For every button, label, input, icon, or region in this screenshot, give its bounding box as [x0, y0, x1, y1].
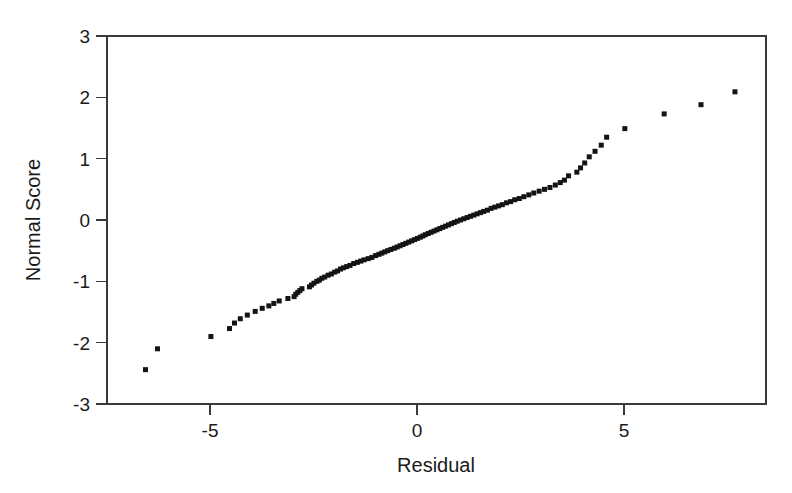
- data-point: [578, 165, 583, 170]
- data-point: [599, 143, 604, 148]
- data-point: [574, 170, 579, 175]
- data-point: [238, 316, 243, 321]
- data-point: [582, 160, 587, 165]
- data-point: [245, 313, 250, 318]
- data-point: [208, 334, 213, 339]
- data-point: [253, 309, 258, 314]
- data-point: [285, 296, 290, 301]
- y-tick-label: 3: [79, 26, 90, 47]
- data-point: [521, 194, 526, 199]
- chart-figure: -3-2-10123 -505 Residual Normal Score: [0, 0, 792, 493]
- data-point: [155, 346, 160, 351]
- x-axis-title: Residual: [397, 454, 475, 476]
- x-tick-label: 5: [619, 420, 630, 441]
- data-point: [143, 367, 148, 372]
- y-tick-label: 1: [79, 149, 90, 170]
- data-point: [537, 189, 542, 194]
- data-point: [593, 149, 598, 154]
- data-point: [587, 154, 592, 159]
- data-point: [531, 191, 536, 196]
- data-point: [562, 178, 567, 183]
- data-point: [622, 126, 627, 131]
- y-tick-label: 0: [79, 210, 90, 231]
- data-point: [542, 187, 547, 192]
- data-point: [227, 326, 232, 331]
- data-point: [277, 298, 282, 303]
- y-tick-label: 2: [79, 87, 90, 108]
- data-point: [512, 197, 517, 202]
- data-point: [566, 173, 571, 178]
- x-tick-label: 0: [412, 420, 423, 441]
- y-tick-label: -2: [73, 333, 90, 354]
- data-point: [260, 306, 265, 311]
- data-point: [232, 321, 237, 326]
- data-point: [526, 192, 531, 197]
- data-point: [662, 111, 667, 116]
- y-axis-title: Normal Score: [22, 159, 44, 281]
- data-point: [604, 135, 609, 140]
- x-tick-label: -5: [202, 420, 219, 441]
- normal-probability-plot: -3-2-10123 -505 Residual Normal Score: [0, 0, 792, 493]
- y-tick-label: -1: [73, 271, 90, 292]
- data-point: [299, 286, 304, 291]
- data-point: [547, 185, 552, 190]
- data-point: [271, 301, 276, 306]
- data-point: [266, 303, 271, 308]
- data-point: [517, 196, 522, 201]
- data-point: [732, 89, 737, 94]
- data-point: [553, 183, 558, 188]
- y-tick-label: -3: [73, 394, 90, 415]
- data-point: [699, 102, 704, 107]
